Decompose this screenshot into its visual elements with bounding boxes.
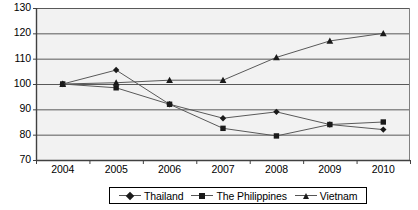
data-point-marker	[274, 133, 279, 138]
x-axis-tick-label: 2008	[254, 163, 298, 175]
data-point-marker	[381, 119, 386, 124]
triangle-marker-icon	[295, 191, 317, 201]
data-point-marker	[327, 122, 332, 127]
legend-item-vietnam[interactable]: Vietnam	[295, 190, 358, 202]
legend-key-marker	[126, 191, 134, 199]
square-marker-icon	[191, 191, 213, 201]
x-axis: 2004200520062007200820092010	[0, 163, 418, 179]
y-axis-tick-label: 120	[3, 27, 31, 37]
legend-item-thailand[interactable]: Thailand	[119, 190, 183, 202]
legend-item-the-philippines[interactable]: The Philippines	[191, 190, 286, 202]
y-axis-tick-label: 100	[3, 78, 31, 88]
y-axis-tick-label: 130	[3, 2, 31, 12]
legend-item-label: Vietnam	[320, 190, 358, 202]
legend-item-label: The Philippines	[216, 190, 286, 202]
x-axis-tick-label: 2009	[308, 163, 352, 175]
line-chart: 130120110100908070 200420052006200720082…	[0, 0, 418, 210]
y-axis-tick-label: 110	[3, 53, 31, 63]
data-point-marker	[113, 85, 118, 90]
legend-key-marker	[199, 193, 205, 199]
x-axis-tick-label: 2010	[361, 163, 405, 175]
data-point-marker	[220, 126, 225, 131]
legend-key-marker	[303, 193, 309, 199]
y-axis-tick-label: 80	[3, 129, 31, 139]
x-axis-tick-label: 2006	[148, 163, 192, 175]
legend-item-label: Thailand	[144, 190, 183, 202]
chart-legend: ThailandThe PhilippinesVietnam	[109, 187, 367, 204]
x-axis-tick-label: 2005	[94, 163, 138, 175]
diamond-marker-icon	[119, 191, 141, 201]
x-axis-tick-label: 2004	[41, 163, 85, 175]
y-axis-tick-label: 90	[3, 103, 31, 113]
data-point-marker	[167, 102, 172, 107]
x-axis-tick-label: 2007	[201, 163, 245, 175]
